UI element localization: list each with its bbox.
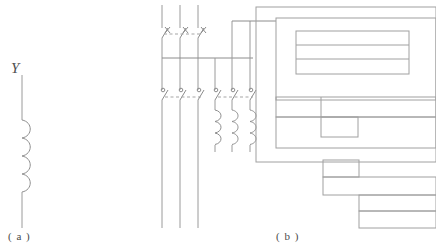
feeder-phase-lines bbox=[162, 5, 198, 228]
upper-disconnect-switch-bank[interactable] bbox=[162, 27, 206, 38]
mid-lower-band bbox=[276, 117, 436, 148]
enclosure-blocks bbox=[256, 7, 436, 228]
display-window-outer bbox=[296, 31, 409, 74]
relay-coil-2 bbox=[232, 110, 238, 145]
lower-step-box-1 bbox=[323, 160, 359, 177]
relay-coil-1 bbox=[215, 110, 221, 145]
lower-step-band-2 bbox=[323, 177, 436, 195]
panel-b-circuit bbox=[161, 5, 436, 228]
panel-a-inductor bbox=[22, 75, 30, 228]
lower-step-band-3 bbox=[359, 195, 436, 211]
outer-enclosure bbox=[256, 7, 436, 162]
mid-inset-box bbox=[321, 117, 358, 137]
branch-phase-lines bbox=[215, 21, 250, 152]
caption-a: ( a ) bbox=[8, 230, 31, 242]
inductor-coil-turns bbox=[22, 120, 30, 192]
lower-contactor-bank-left[interactable] bbox=[161, 88, 204, 100]
figure-container: Y ( a ) ( b ) bbox=[0, 0, 436, 251]
relay-coil-3 bbox=[250, 110, 256, 145]
inductor-label: Y bbox=[11, 60, 19, 77]
lower-step-band-4 bbox=[359, 211, 436, 228]
caption-b: ( b ) bbox=[276, 230, 299, 242]
overload-relay-coils bbox=[215, 110, 256, 145]
schematic-drawing bbox=[0, 0, 436, 251]
